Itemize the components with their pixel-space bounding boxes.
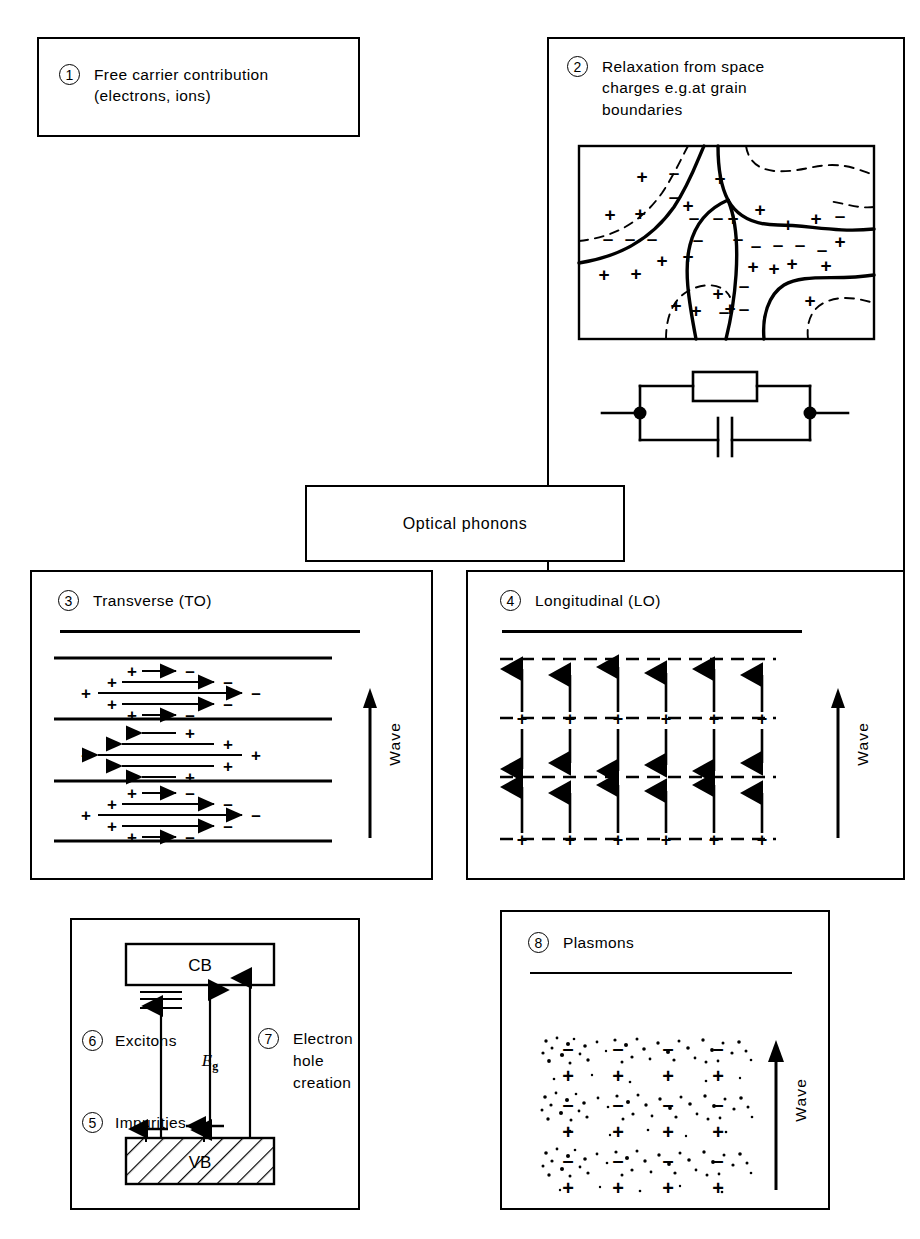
- svg-text:–: –: [733, 228, 744, 249]
- svg-text:–: –: [712, 1149, 723, 1171]
- svg-text:–: –: [625, 228, 636, 249]
- terminal-right: [804, 407, 817, 420]
- svg-text:+: +: [786, 253, 797, 274]
- svg-text:+: +: [107, 817, 117, 836]
- svg-text:+: +: [612, 1177, 624, 1199]
- svg-text:+: +: [185, 724, 195, 743]
- svg-text:+: +: [712, 1121, 724, 1143]
- svg-text:–: –: [739, 298, 750, 319]
- svg-text:–: –: [817, 239, 828, 260]
- svg-text:–: –: [185, 706, 194, 725]
- svg-text:–: –: [712, 1037, 723, 1059]
- label-electron-hole-creation: 7 Electron hole creation: [258, 1028, 353, 1094]
- svg-text:+: +: [562, 1121, 574, 1143]
- svg-text:+: +: [834, 231, 845, 252]
- svg-text:+: +: [127, 784, 137, 803]
- box1-header: 1 Free carrier contribution (electrons, …: [59, 64, 269, 107]
- box4-header-rule: [502, 630, 802, 633]
- eg-label: Eg: [201, 1051, 218, 1073]
- svg-text:–: –: [223, 695, 232, 714]
- svg-text:–: –: [689, 207, 700, 228]
- svg-text:+: +: [727, 208, 738, 229]
- svg-text:–: –: [739, 275, 750, 296]
- svg-text:+: +: [604, 204, 615, 225]
- svg-text:+: +: [223, 735, 233, 754]
- svg-text:–: –: [562, 1037, 573, 1059]
- grain-boundary-panel: +++ +++ +++ +++ +++ +++ +++ ++ ––– ––– –…: [578, 145, 875, 340]
- svg-text:+: +: [81, 806, 91, 825]
- label-impurities: 5 Impurities: [82, 1112, 186, 1133]
- svg-text:+: +: [804, 290, 815, 311]
- badge-4: 4: [500, 590, 521, 611]
- svg-text:–: –: [251, 684, 260, 703]
- svg-text:–: –: [603, 228, 614, 249]
- svg-text:+: +: [612, 1121, 624, 1143]
- box-free-carrier: 1 Free carrier contribution (electrons, …: [37, 37, 360, 137]
- svg-text:+: +: [562, 1065, 574, 1087]
- exciton-levels: [140, 992, 182, 1008]
- svg-text:+: +: [690, 300, 701, 321]
- svg-text:+: +: [127, 828, 137, 847]
- box1-label: Free carrier contribution (electrons, io…: [94, 64, 269, 107]
- box3-header-rule: [60, 630, 360, 633]
- box3-header: 3 Transverse (TO): [58, 590, 212, 611]
- svg-text:–: –: [185, 662, 194, 681]
- svg-text:–: –: [185, 828, 194, 847]
- plasmon-wave-arrow: [766, 1040, 786, 1190]
- svg-text:–: –: [562, 1149, 573, 1171]
- svg-text:+: +: [662, 1121, 674, 1143]
- svg-text:–: –: [835, 205, 846, 226]
- svg-text:+: +: [107, 795, 117, 814]
- svg-text:–: –: [223, 817, 232, 836]
- svg-text:+: +: [810, 208, 821, 229]
- excitons-label: Excitons: [115, 1030, 177, 1051]
- box-optical-phonons: Optical phonons: [305, 485, 625, 562]
- box8-header-rule: [530, 972, 792, 974]
- vb-label: VB: [189, 1153, 212, 1172]
- svg-text:–: –: [713, 207, 724, 228]
- box4-header: 4 Longitudinal (LO): [500, 590, 661, 611]
- badge-6: 6: [82, 1030, 103, 1051]
- svg-text:+: +: [670, 295, 681, 316]
- box8-header: 8 Plasmons: [528, 932, 634, 953]
- badge-1: 1: [59, 64, 80, 85]
- svg-text:+: +: [712, 1065, 724, 1087]
- equivalent-rc-circuit: [600, 368, 850, 458]
- svg-text:–: –: [107, 757, 116, 776]
- svg-text:+: +: [782, 214, 793, 235]
- svg-text:–: –: [251, 806, 260, 825]
- label-excitons: 6 Excitons: [82, 1030, 177, 1051]
- resistor-symbol: [693, 372, 757, 401]
- svg-text:+: +: [127, 662, 137, 681]
- badge-7: 7: [258, 1028, 279, 1049]
- svg-text:+: +: [768, 258, 779, 279]
- svg-text:–: –: [612, 1037, 623, 1059]
- svg-text:+: +: [127, 706, 137, 725]
- svg-text:+: +: [251, 746, 261, 765]
- svg-text:+: +: [630, 263, 641, 284]
- svg-text:–: –: [647, 228, 658, 249]
- to-wave-arrow: [360, 688, 380, 838]
- optical-phonons-label: Optical phonons: [307, 487, 623, 560]
- badge-5: 5: [82, 1112, 103, 1133]
- lo-wave-arrow: [828, 688, 848, 838]
- svg-text:–: –: [81, 746, 90, 765]
- to-wave-label: Wave: [386, 722, 404, 766]
- svg-text:–: –: [669, 162, 680, 183]
- svg-text:+: +: [712, 1177, 724, 1199]
- svg-text:–: –: [127, 724, 136, 743]
- box2-label: Relaxation from space charges e.g.at gra…: [602, 56, 765, 120]
- svg-text:–: –: [612, 1149, 623, 1171]
- svg-text:+: +: [107, 695, 117, 714]
- svg-text:+: +: [747, 256, 758, 277]
- svg-text:+: +: [662, 1065, 674, 1087]
- svg-text:+: +: [612, 1065, 624, 1087]
- svg-text:+: +: [714, 168, 725, 189]
- svg-text:–: –: [669, 186, 680, 207]
- terminal-left: [634, 407, 647, 420]
- svg-text:+: +: [634, 203, 645, 224]
- box2-header: 2 Relaxation from space charges e.g.at g…: [567, 56, 765, 120]
- lo-wave-label: Wave: [854, 722, 872, 766]
- svg-text:–: –: [223, 795, 232, 814]
- svg-text:–: –: [795, 234, 806, 255]
